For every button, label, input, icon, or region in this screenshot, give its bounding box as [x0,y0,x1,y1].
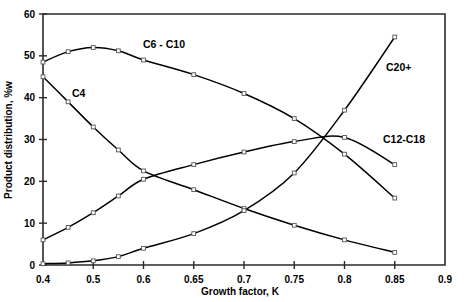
data-point-marker [343,238,347,242]
x-tick-label: 0.8 [338,274,352,285]
y-tick-label: 30 [24,134,36,145]
x-axis-tick-labels: 0.40.50.60.650.70.750.80.850.9 [36,274,452,285]
x-tick-label: 0.5 [86,274,100,285]
data-point-marker [116,148,120,152]
data-point-marker [242,209,246,213]
x-tick-label: 0.75 [285,274,305,285]
data-point-marker [343,136,347,140]
data-point-marker [393,196,397,200]
data-point-marker [192,73,196,77]
data-point-marker [41,75,45,79]
y-tick-label: 0 [29,260,35,271]
data-point-marker [292,140,296,144]
data-point-marker [242,92,246,96]
data-point-marker [292,223,296,227]
data-point-marker [116,194,120,198]
series-label: C20+ [386,61,411,73]
series-line-c20 [43,37,395,264]
data-point-marker [116,49,120,53]
data-point-marker [142,246,146,250]
data-point-marker [343,108,347,112]
data-point-marker [91,211,95,215]
x-tick-label: 0.4 [36,274,50,285]
data-point-marker [393,163,397,167]
data-point-marker [192,163,196,167]
data-point-marker [91,259,95,263]
x-tick-label: 0.65 [184,274,204,285]
y-tick-label: 10 [24,218,36,229]
x-tick-label: 0.6 [137,274,151,285]
x-tick-label: 0.7 [237,274,251,285]
series-label: C4 [72,87,86,99]
y-tick-label: 60 [24,9,36,20]
data-point-marker [91,125,95,129]
data-point-marker [116,255,120,259]
series-line-c4 [43,77,395,253]
y-tick-label: 40 [24,92,36,103]
data-point-marker [242,150,246,154]
data-point-marker [393,35,397,39]
product-distribution-chart: 0102030405060 0.40.50.60.650.70.750.80.8… [0,0,472,302]
data-point-marker [192,232,196,236]
data-point-marker [41,60,45,64]
y-axis-title: Product distribution, %w [3,81,14,199]
data-point-marker [41,262,45,266]
data-point-marker [66,50,70,54]
data-point-marker [343,152,347,156]
y-axis-tick-labels: 0102030405060 [24,9,36,271]
series-label: C12-C18 [383,133,425,145]
data-point-marker [192,188,196,192]
data-point-marker [66,225,70,229]
figure-container: 0102030405060 0.40.50.60.650.70.750.80.8… [0,0,472,302]
x-tick-label: 0.9 [438,274,452,285]
series-line-c6-c10 [43,47,395,198]
data-point-marker [292,171,296,175]
data-point-marker [292,117,296,121]
data-point-marker [41,238,45,242]
data-point-marker [66,261,70,265]
series-label: C6 - C10 [143,38,185,50]
x-tick-label: 0.85 [385,274,405,285]
series-inline-labels: C6 - C10C4C20+C12-C18 [72,38,425,145]
data-point-marker [142,58,146,62]
y-tick-label: 50 [24,50,36,61]
data-point-marker [142,169,146,173]
data-point-marker [142,177,146,181]
y-tick-label: 20 [24,176,36,187]
series-markers-group [41,35,397,266]
figure-caption-strip [0,288,472,302]
data-point-marker [66,100,70,104]
series-lines-group [43,37,395,264]
data-point-marker [91,46,95,50]
data-point-marker [393,251,397,255]
